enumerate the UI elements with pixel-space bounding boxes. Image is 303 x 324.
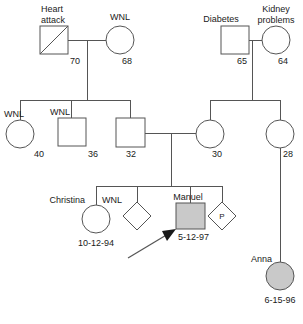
- g3-manuel-birthdate: 5-12-97: [178, 232, 209, 242]
- g3-christina-name: Christina: [49, 195, 85, 205]
- g3-christina-circle[interactable]: [82, 205, 110, 233]
- g2-father-32-square[interactable]: [116, 118, 145, 147]
- g2-sister-40-age: 40: [34, 149, 44, 159]
- g3-christina-birthdate: 10-12-94: [78, 238, 114, 248]
- g1-father-condition-label-line2: attack: [41, 15, 66, 25]
- g1-father-right-condition-label: Diabetes: [203, 14, 239, 24]
- g3-manuel-square[interactable]: [176, 203, 205, 229]
- g2-mother-30-circle[interactable]: [196, 120, 224, 148]
- pedigree-canvas: Heart attack 70 WNL 68 Diabetes 65 Kidne…: [0, 0, 303, 324]
- pedigree-chart: Heart attack 70 WNL 68 Diabetes 65 Kidne…: [0, 0, 303, 324]
- g1-mother-right-age: 64: [278, 56, 288, 66]
- g3-anna-circle[interactable]: [266, 262, 294, 290]
- g1-father-age: 70: [70, 56, 80, 66]
- g1-father-condition-label: Heart: [41, 4, 64, 14]
- g2-brother-36-condition-label: WNL: [50, 107, 70, 117]
- g1-father-right-age: 65: [237, 56, 247, 66]
- g1-mother-condition-label: WNL: [110, 12, 130, 22]
- g2-sister-40-condition-label: WNL: [4, 109, 24, 119]
- g1-mother-right-circle[interactable]: [262, 26, 290, 54]
- g2-sister-40-circle[interactable]: [6, 120, 34, 148]
- proband-arrow-line: [128, 234, 168, 258]
- g2-brother-36-square[interactable]: [58, 118, 86, 146]
- g2-mother-30-age: 30: [212, 149, 222, 159]
- g1-father-right-square[interactable]: [221, 26, 249, 54]
- g2-father-32-age: 32: [126, 149, 136, 159]
- g2-aunt-28-circle[interactable]: [266, 120, 294, 148]
- g1-mother-right-condition-label-line2: problems: [257, 15, 295, 25]
- g1-mother-age: 68: [122, 56, 132, 66]
- g3-anna-name: Anna: [251, 254, 272, 264]
- g1-mother-circle[interactable]: [106, 26, 134, 54]
- g3-pregnancy-label: P: [219, 212, 224, 221]
- g3-christina-condition-label: WNL: [102, 195, 122, 205]
- g1-mother-right-condition-label: Kidney: [262, 4, 290, 14]
- g2-aunt-28-age: 28: [283, 149, 293, 159]
- proband-arrow-icon: [162, 229, 176, 241]
- g2-brother-36-age: 36: [88, 149, 98, 159]
- g3-manuel-name: Manuel: [173, 192, 203, 202]
- g3-anna-birthdate: 6-15-96: [264, 295, 295, 305]
- g3-unknown-1-diamond[interactable]: [123, 202, 151, 230]
